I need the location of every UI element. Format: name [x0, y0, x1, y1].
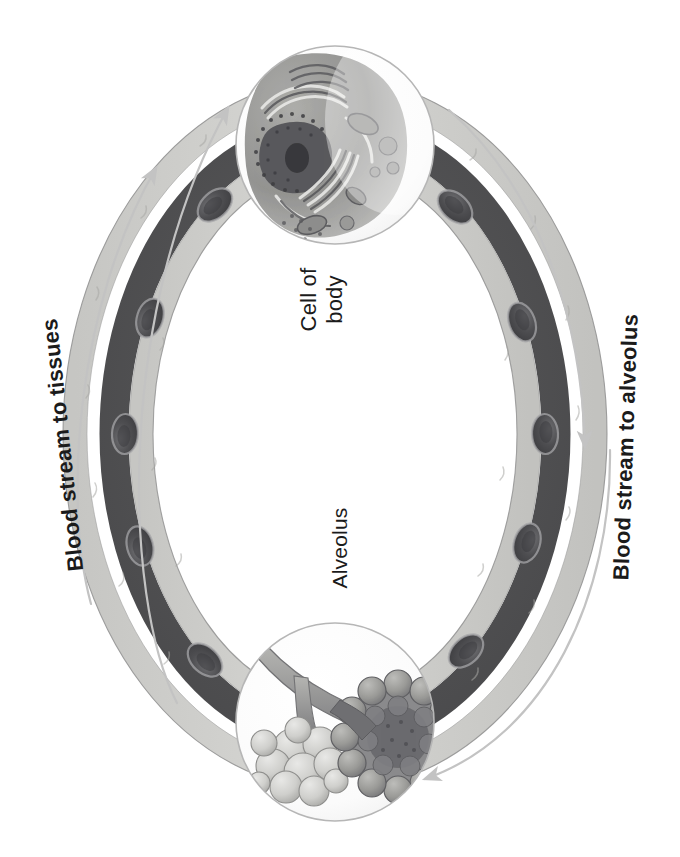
label-alveolus: Alveolus [328, 483, 352, 613]
cell-nucleolus [285, 143, 309, 173]
red-blood-cell [531, 414, 558, 455]
circulation-diagram: Blood stream to tissues Blood stream to … [0, 0, 680, 857]
label-cell-of-body: Cell ofbody [296, 235, 347, 365]
label-cell-line2: body [322, 235, 348, 365]
cell-of-body-inset [236, 25, 465, 244]
label-cell-line1: Cell of [296, 268, 321, 332]
alveolus-inset [236, 623, 465, 821]
red-blood-cell [111, 414, 138, 455]
diagram-canvas [0, 0, 680, 857]
